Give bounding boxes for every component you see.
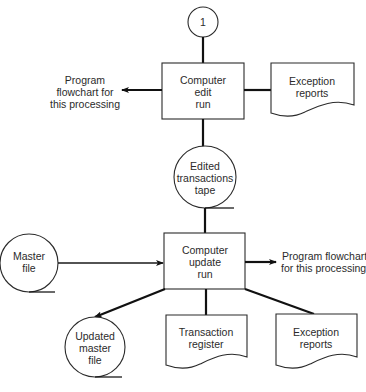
update-to-master-arrow xyxy=(95,289,165,317)
tape-line-1: Edited xyxy=(190,160,220,172)
doc-line-2: reports xyxy=(296,87,329,99)
off-page-connector: 1 xyxy=(188,7,218,37)
label-line-1: Program flowchart xyxy=(282,250,366,262)
master-file-tape: Master file xyxy=(0,234,58,292)
update-program-flowchart-label: Program flowchart for this processing xyxy=(281,250,366,274)
register-line-2: register xyxy=(188,338,224,350)
master-line-1: Master xyxy=(13,250,46,262)
doc-line-1: Exception xyxy=(293,326,339,338)
edit-run-line-3: run xyxy=(195,98,210,110)
edit-run-line-2: edit xyxy=(195,86,212,98)
updated-line-3: file xyxy=(88,354,102,366)
doc-line-2: reports xyxy=(300,338,333,350)
tape-line-3: tape xyxy=(195,184,216,196)
flowchart-canvas: 1 Computer edit run Program flowchart fo… xyxy=(0,0,366,392)
updated-master-file-tape: Updated master file xyxy=(65,317,125,377)
edit-run-process: Computer edit run xyxy=(162,63,244,119)
updated-line-1: Updated xyxy=(75,330,115,342)
edited-transactions-tape: Edited transactions tape xyxy=(174,146,236,208)
label-line-2: for this processing xyxy=(281,262,366,274)
doc-line-1: Exception xyxy=(289,75,335,87)
label-line-2: flowchart for xyxy=(56,86,114,98)
edit-exception-report-document: Exception reports xyxy=(271,63,354,116)
label-line-3: this processing xyxy=(50,98,120,110)
master-line-2: file xyxy=(22,262,36,274)
register-line-1: Transaction xyxy=(179,326,234,338)
update-exception-report-document: Exception reports xyxy=(276,314,357,368)
tape-line-2: transactions xyxy=(177,172,234,184)
updated-line-2: master xyxy=(79,342,112,354)
connector-label: 1 xyxy=(200,16,206,28)
label-line-1: Program xyxy=(65,74,106,86)
transaction-register-document: Transaction register xyxy=(166,315,247,368)
update-line-1: Computer xyxy=(182,244,229,256)
update-line-3: run xyxy=(197,268,212,280)
edit-program-flowchart-label: Program flowchart for this processing xyxy=(50,74,120,110)
update-to-exception-line xyxy=(245,289,314,314)
edit-run-line-1: Computer xyxy=(180,74,227,86)
update-run-process: Computer update run xyxy=(164,233,245,289)
update-line-2: update xyxy=(189,256,221,268)
